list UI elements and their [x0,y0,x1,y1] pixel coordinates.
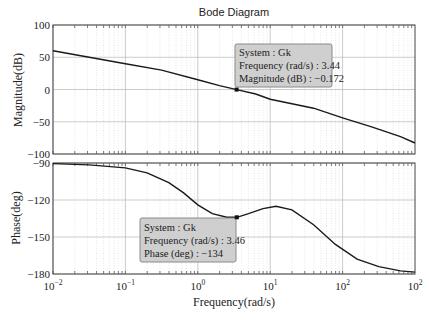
svg-text:−120: −120 [27,194,50,206]
magnitude-datatip-marker[interactable] [235,88,239,92]
svg-text:0: 0 [45,84,51,96]
x-tick-label: 102 [335,278,350,292]
x-tick-label: 10−1 [116,278,135,292]
x-tick-label: 100 [190,278,205,292]
magnitude-datatip-frequency: Frequency (rad/s) : 3.44 [239,60,341,72]
chart-title: Bode Diagram [199,6,269,18]
x-axis-label: Frequency(rad/s) [193,295,275,309]
phase-y-ticks: −90−120−150−180 [27,157,50,280]
x-tick-label: 102 [408,278,423,292]
phase-datatip-value: Phase (deg) : −134 [144,248,224,260]
magnitude-y-ticks: 100500−50−100 [27,19,50,160]
phase-datatip-frequency: Frequency (rad/s) : 3.46 [144,235,245,247]
svg-text:100: 100 [34,19,51,31]
phase-y-label: Phase(deg) [9,191,23,244]
x-tick-label: 10−2 [44,278,63,292]
x-tick-label: 101 [263,278,278,292]
magnitude-datatip-system: System : Gk [239,47,292,58]
svg-text:−90: −90 [33,157,51,169]
svg-text:−150: −150 [27,231,50,243]
magnitude-y-label: Magnitude(dB) [11,53,25,127]
magnitude-curve [53,51,415,143]
magnitude-axes: 100500−50−100 Magnitude(dB) [11,19,415,160]
svg-text:−50: −50 [33,116,51,128]
phase-datatip-marker[interactable] [235,215,239,219]
phase-datatip-system: System : Gk [144,222,197,233]
svg-text:50: 50 [39,51,51,63]
magnitude-datatip-value: Magnitude (dB) : −0.172 [239,73,344,85]
phase-datatip[interactable]: System : Gk Frequency (rad/s) : 3.46 Pha… [140,215,245,262]
bode-figure: Bode Diagram 100500−50−100 Magnitude(dB)… [0,0,429,320]
svg-text:−180: −180 [27,268,50,280]
x-tick-labels: 10−210−1100101102102 [44,278,423,292]
magnitude-datatip[interactable]: System : Gk Frequency (rad/s) : 3.44 Mag… [235,44,344,92]
